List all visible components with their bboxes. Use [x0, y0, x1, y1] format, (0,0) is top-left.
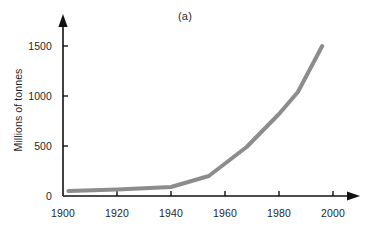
figure-panel: (a) Millions of tonnes 1500 1000 500 0 1… [0, 0, 385, 241]
plot-area [0, 0, 385, 241]
y-axis-arrowhead [58, 14, 67, 27]
x-axis-arrowhead [347, 191, 360, 200]
data-series-line [68, 46, 322, 191]
